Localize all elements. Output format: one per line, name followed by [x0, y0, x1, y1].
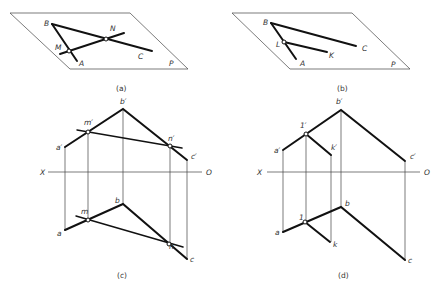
panel-b: B L A K C P (b)	[232, 13, 410, 93]
point-m	[67, 49, 71, 53]
projection-figure: B N M A C P (a) B L A K C P (b) X O	[0, 0, 437, 290]
point-l	[282, 40, 286, 44]
front-1k	[306, 134, 331, 155]
point-1-prime	[304, 132, 308, 136]
label-m-prime: m′	[84, 118, 93, 127]
label-b: b	[115, 196, 120, 205]
panel-d: X O b′ 1′ a′ k′ c′ b 1 a k c (d)	[256, 97, 430, 280]
axis-label-o: O	[424, 168, 430, 177]
label-a: a	[57, 229, 62, 238]
top-mn	[76, 216, 183, 247]
front-mn	[77, 130, 182, 148]
label-k: k	[333, 240, 338, 249]
label-b: b	[345, 199, 350, 208]
label-b: B	[263, 18, 268, 27]
label-c: c	[190, 255, 195, 264]
axis-label-x: X	[39, 168, 46, 177]
label-p: P	[169, 59, 174, 68]
top-1k	[305, 222, 330, 242]
label-1-prime: 1′	[300, 121, 307, 130]
label-a: A	[299, 59, 305, 68]
label-a-prime: a′	[274, 146, 281, 155]
label-n: n	[169, 242, 174, 251]
label-1: 1	[299, 213, 304, 222]
axis-label-o: O	[206, 168, 212, 177]
label-b: B	[44, 19, 49, 28]
label-b-prime: b′	[336, 97, 343, 106]
label-n: N	[110, 24, 116, 33]
label-k: K	[329, 51, 335, 60]
label-c: c	[408, 256, 413, 265]
label-c-prime: c′	[410, 152, 416, 161]
panel-a: B N M A C P (a)	[10, 13, 188, 93]
label-l: L	[276, 40, 280, 49]
label-c-prime: c′	[191, 152, 197, 161]
label-a: A	[78, 59, 84, 68]
point-m-prime	[86, 130, 90, 134]
label-k-prime: k′	[331, 143, 337, 152]
point-m	[86, 218, 90, 222]
axis-label-x: X	[256, 168, 263, 177]
label-m: m	[81, 207, 88, 216]
point-n	[104, 37, 108, 41]
label-c: C	[362, 44, 368, 53]
panel-c: X O b′ m′ a′ n′ c′ b m a n c (c)	[39, 97, 212, 280]
label-n-prime: n′	[168, 134, 175, 143]
label-c: C	[138, 52, 144, 61]
plane-p	[232, 13, 410, 69]
point-n-prime	[168, 144, 172, 148]
label-m: M	[55, 43, 62, 52]
front-abc	[283, 110, 405, 161]
caption-c: (c)	[117, 271, 127, 280]
label-a: a	[275, 228, 280, 237]
label-a-prime: a′	[56, 143, 63, 152]
caption-d: (d)	[338, 271, 349, 280]
label-p: P	[391, 60, 396, 69]
caption-a: (a)	[116, 84, 127, 93]
caption-b: (b)	[337, 84, 348, 93]
label-b-prime: b′	[120, 97, 127, 106]
